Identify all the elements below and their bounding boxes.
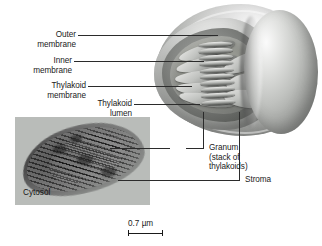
thylakoid-disc <box>199 54 233 61</box>
label-stroma: Stroma <box>245 175 295 185</box>
thylakoid-disc <box>199 60 233 67</box>
chloroplast-figure: Cytosol Outer membrane Inner membrane Th… <box>0 0 322 246</box>
granum-stack <box>198 41 235 109</box>
thylakoid-disc <box>201 92 235 99</box>
leader-line-thylakoid-membrane <box>88 86 192 87</box>
leader-line-thylakoid-lumen <box>134 104 200 105</box>
scale-bar-rule <box>128 230 163 236</box>
micrograph-granum <box>77 155 93 165</box>
thylakoid-disc <box>199 48 233 55</box>
envelope-cut-edge <box>240 16 262 128</box>
label-outer-membrane: Outer membrane <box>12 30 76 49</box>
leader-line-stroma-horizontal <box>118 180 240 181</box>
scale-bar: 0.7 µm <box>128 219 163 236</box>
label-thylakoid-lumen: Thylakoid lumen <box>56 99 132 118</box>
leader-line-granum-horizontal <box>186 148 204 149</box>
leader-line-granum-vertical <box>203 112 204 148</box>
scale-bar-label: 0.7 µm <box>128 219 163 228</box>
label-granum: Granum (stack of thylakoids) <box>209 143 279 172</box>
micrograph-granum <box>70 135 82 143</box>
chloroplast-illustration <box>148 2 322 148</box>
electron-micrograph: Cytosol <box>15 117 150 205</box>
micrograph-granum <box>53 145 67 154</box>
leader-line-granum-micrograph <box>110 148 170 149</box>
thylakoid-disc <box>200 73 234 80</box>
thylakoid-disc <box>201 99 235 106</box>
label-thylakoid-membrane: Thylakoid membrane <box>8 81 86 100</box>
thylakoid-disc <box>198 41 232 48</box>
thylakoid-disc <box>201 86 235 93</box>
thylakoid-disc <box>200 67 234 74</box>
leader-line-inner-membrane <box>74 61 204 62</box>
cytosol-label: Cytosol <box>23 188 50 197</box>
thylakoid-disc <box>200 79 234 86</box>
micrograph-granum <box>101 167 116 177</box>
label-inner-membrane: Inner membrane <box>12 56 72 75</box>
leader-line-outer-membrane <box>78 35 218 36</box>
